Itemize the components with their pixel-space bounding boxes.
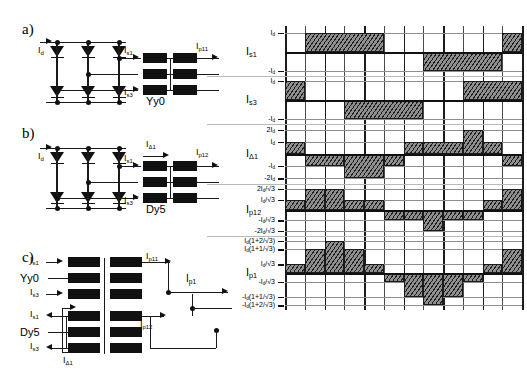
waveform-pulse-s1-1 [305,33,384,52]
waveform-pulse-Δ1-0 [285,142,305,154]
y-axis-label-Δ1-3: -2Id [219,174,275,182]
waveform-pulse-p12-7 [423,210,443,231]
waveform-pulse-p12-1 [305,189,325,210]
y-axis-label-p12-3: -2Id/√3 [219,227,275,235]
tick-mark-Δ1-2 [278,166,284,167]
tick-gridline-p1-0 [285,241,522,242]
waveform-pulse-p1-1 [305,249,325,273]
waveform-pulse-Δ1-6 [463,130,483,154]
tick-gridline-Δ1-2 [285,166,522,167]
y-axis-label-p1-2: Id/√3 [219,260,275,268]
waveform-pulse-s3-0 [285,81,305,100]
y-axis-label-p1-5: -Id(1+2/√3) [219,301,275,309]
y-axis-label-Δ1-2: -Id [219,162,275,170]
y-axis-label-Δ1-0: 2Id [219,126,275,134]
zero-axis-s1 [285,52,522,54]
tick-gridline-p12-3 [285,231,522,232]
gridline-major-6 [404,26,406,310]
waveform-pulse-p12-0 [285,200,305,210]
tick-mark-p12-3 [278,231,284,232]
waveform-pulse-p12-11 [502,189,522,210]
tick-mark-Δ1-3 [278,178,284,179]
zero-axis-p12 [285,210,522,212]
tick-mark-p1-3 [278,282,284,283]
trace-name-s3: Is3 [246,93,257,107]
waveform-pulse-p1-10 [483,264,503,273]
y-axis-label-p12-0: 2Id/√3 [219,185,275,193]
tick-gridline-s3-1 [285,119,522,120]
y-axis-label-p1-0: Id(1+2/√3) [219,237,275,245]
y-axis-label-p12-2: -Id/√3 [219,216,275,224]
tick-mark-s1-0 [278,33,284,34]
tick-gridline-Δ1-0 [285,130,522,131]
gridline-minor-5 [384,26,385,310]
trace-name-s1: Is1 [246,45,257,59]
tick-mark-s3-1 [278,119,284,120]
y-axis-label-p12-1: Id/√3 [219,195,275,203]
tick-mark-Δ1-1 [278,142,284,143]
tick-mark-Δ1-0 [278,130,284,131]
tick-mark-p12-2 [278,220,284,221]
y-axis-label-p1-3: -Id/√3 [219,278,275,286]
waveform-pulse-s1-3 [423,52,502,71]
waveform-pulse-Δ1-4 [404,142,424,154]
waveform-pulse-p1-8 [443,273,463,297]
waveform-pulse-Δ1-2 [344,154,384,178]
tick-mark-p12-0 [278,189,284,190]
y-axis-label-s1-1: -Id [219,67,275,75]
y-axis-label-p1-1: Id(1+1/√3) [219,245,275,253]
trace-name-p12: Ip12 [246,203,261,217]
waveform-pulse-s1-4 [502,33,522,52]
tick-gridline-p1-4 [285,297,522,298]
waveform-pulse-Δ1-1 [305,154,345,166]
figure-root: a)IdIs1Is3Yy0Ip11b)IdIs1Is3Dy5Ip12IΔ1c)I… [0,0,527,378]
trace-name-Δ1: IΔ1 [246,147,258,161]
waveform-pulse-Δ1-3 [384,154,404,166]
waveform-pulse-p1-2 [325,241,345,273]
tick-mark-p1-5 [278,305,284,306]
tick-gridline-Δ1-3 [285,178,522,179]
tick-mark-s3-0 [278,81,284,82]
y-axis-label-s1-0: Id [219,29,275,37]
waveform-pulse-p1-11 [502,249,522,273]
tick-mark-p1-1 [278,249,284,250]
waveform-pulse-s3-4 [463,81,522,100]
waveform-pulse-p12-3 [344,200,364,210]
tick-gridline-p1-5 [285,305,522,306]
tick-mark-p1-2 [278,264,284,265]
tick-gridline-s1-1 [285,71,522,72]
y-axis-label-s3-1: -Id [219,115,275,123]
waveform-chart: Is1Id-IdIs3Id-IdIΔ12IdId-Id-2IdIp122Id/√… [0,0,527,378]
tick-mark-p1-0 [278,241,284,242]
zero-axis-Δ1 [285,154,522,156]
zero-axis-p1 [285,273,522,275]
waveform-pulse-p12-10 [483,200,503,210]
waveform-pulse-p12-2 [325,189,345,210]
y-axis-label-p1-4: -Id(1+1/√3) [219,293,275,301]
gridline-major-12 [522,26,524,310]
waveform-pulse-p1-0 [285,264,305,273]
tick-mark-p12-1 [278,200,284,201]
waveform-pulse-p1-4 [364,264,384,273]
y-axis-label-s3-0: Id [219,77,275,85]
tick-mark-p1-4 [278,297,284,298]
waveform-pulse-p12-4 [364,200,384,210]
y-axis-label-Δ1-1: Id [219,138,275,146]
waveform-pulse-Δ1-8 [502,154,522,166]
tick-mark-s1-1 [278,71,284,72]
waveform-pulse-Δ1-7 [483,142,503,154]
waveform-pulse-s3-2 [344,100,423,119]
zero-axis-s3 [285,100,522,102]
tick-gridline-p12-2 [285,220,522,221]
waveform-pulse-Δ1-5 [423,142,463,154]
waveform-pulse-p1-7 [423,273,443,305]
waveform-pulse-p1-3 [344,249,364,273]
waveform-pulse-p1-6 [404,273,424,297]
